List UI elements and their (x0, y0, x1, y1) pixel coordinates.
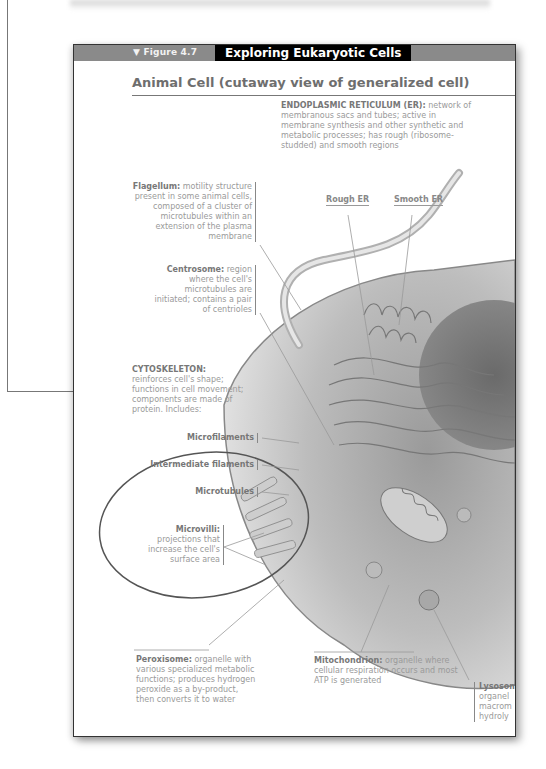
mitochondrion-term: Mitochondrion: (314, 656, 382, 665)
lysosome-label: Lysosom organel macrom hydroly (474, 682, 516, 722)
microvilli-term: Microvilli: (176, 525, 220, 534)
microtubules-term: Microtubules (195, 487, 254, 496)
cytoskeleton-description: reinforces cell's shape; functions in ce… (132, 375, 244, 414)
lysosome-line: hydroly (479, 712, 509, 721)
microfilaments-label: Microfilaments (134, 433, 258, 443)
flagellum-term: Flagellum: (133, 182, 180, 191)
intermediate-filaments-term: Intermediate filaments (150, 460, 254, 469)
rough-er-label: Rough ER (326, 195, 369, 206)
cytoskeleton-label: CYTOSKELETON: reinforces cell's shape; f… (132, 365, 257, 415)
smooth-er-label: Smooth ER (394, 195, 443, 206)
figure-panel: ▼ Figure 4.7 Exploring Eukaryotic Cells … (73, 44, 516, 737)
page-shadow (70, 0, 490, 10)
cytoskeleton-term: CYTOSKELETON: (132, 365, 206, 374)
intermediate-filaments-label: Intermediate filaments (114, 460, 258, 470)
peroxisome-term: Peroxisome: (136, 655, 192, 664)
microtubules-label: Microtubules (134, 487, 258, 497)
flagellum-label: Flagellum: motility structure present in… (132, 182, 256, 242)
callout-line (7, 0, 8, 391)
mitochondrion-label: Mitochondrion: organelle where cellular … (314, 656, 469, 686)
centrosome-term: Centrosome: (167, 265, 224, 274)
lysosome-line: macrom (479, 702, 512, 711)
peroxisome-label: Peroxisome: organelle with various speci… (136, 655, 258, 705)
er-term: ENDOPLASMIC RETICULUM (ER): (281, 101, 426, 110)
lysosome-term: Lysosom (479, 682, 516, 691)
lysosome-line: organel (479, 692, 509, 701)
microfilaments-term: Microfilaments (187, 433, 254, 442)
centrosome-label: Centrosome: region where the cell's micr… (154, 265, 256, 315)
er-label: ENDOPLASMIC RETICULUM (ER): network of m… (281, 101, 481, 151)
microvilli-label: Microvilli: projections that increase th… (142, 525, 224, 565)
microvilli-description: projections that increase the cell's sur… (148, 535, 220, 564)
